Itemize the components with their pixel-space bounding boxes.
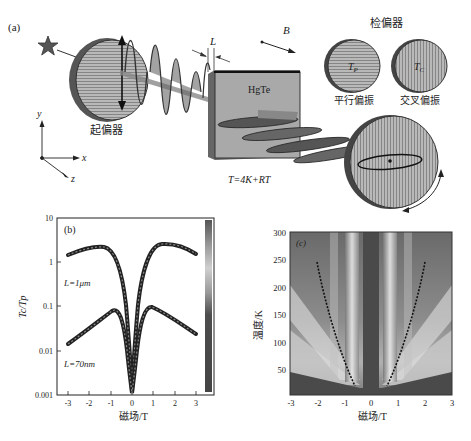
svg-text:-3: -3 xyxy=(287,398,294,408)
thickness-label: L xyxy=(209,35,216,47)
svg-text:10: 10 xyxy=(45,214,53,223)
coordinate-axes xyxy=(40,120,81,178)
figure: (a) L xyxy=(0,0,471,441)
thickness-marker: L xyxy=(192,35,230,72)
svg-text:150: 150 xyxy=(273,310,286,320)
plot-b-ylabel: Tc/Tp xyxy=(17,296,28,318)
svg-text:-2: -2 xyxy=(86,399,93,408)
svg-text:250: 250 xyxy=(273,255,286,265)
cross-polarization-disc: TC xyxy=(391,39,447,93)
z-axis-label: z xyxy=(70,173,75,184)
field-label: B xyxy=(283,24,290,36)
svg-text:2: 2 xyxy=(423,398,427,408)
plot-b-xticks: -3 -2 -1 0 1 2 3 xyxy=(65,399,198,408)
panel-c: (c) 50 100 150 200 250 300 -3 -2 -1 0 1 … xyxy=(252,228,454,422)
svg-text:1: 1 xyxy=(151,399,155,408)
parallel-label: 平行偏振 xyxy=(334,94,374,106)
svg-text:0: 0 xyxy=(130,399,134,408)
svg-text:1: 1 xyxy=(49,258,53,267)
temperature-label: T=4K+RT xyxy=(228,174,272,185)
panel-a-label: (a) xyxy=(8,21,21,34)
panel-a: (a) L xyxy=(8,16,447,213)
x-axis-label: x xyxy=(81,152,87,163)
svg-text:3: 3 xyxy=(450,398,454,408)
parallel-polarization-disc: TP xyxy=(324,39,380,93)
panel-c-label: (c) xyxy=(296,238,306,248)
panel-b: (b) 0.001 0.01 0.1 1 10 -3 -2 -1 0 1 2 3 xyxy=(17,214,214,422)
svg-text:300: 300 xyxy=(273,228,286,238)
svg-text:0.01: 0.01 xyxy=(39,347,53,356)
plot-c-yticks: 50 100 150 200 250 300 xyxy=(273,228,286,375)
polarizer-label: 起偏器 xyxy=(90,123,123,136)
svg-text:50: 50 xyxy=(278,365,287,375)
annotation-70nm: L=70nm xyxy=(63,359,96,369)
svg-text:200: 200 xyxy=(273,283,286,293)
heatmap xyxy=(290,232,452,395)
svg-text:0: 0 xyxy=(369,398,373,408)
cross-label: 交叉偏振 xyxy=(400,94,440,106)
analyzer-disc xyxy=(344,115,438,209)
plot-b-xlabel: 磁场/T xyxy=(119,410,148,422)
plot-b-yticks: 0.001 0.01 0.1 1 10 xyxy=(35,214,53,400)
plot-c-ylabel: 温度/K xyxy=(252,309,264,340)
svg-text:100: 100 xyxy=(273,338,286,348)
svg-text:-1: -1 xyxy=(108,399,115,408)
plot-c-xticks: -3 -2 -1 0 1 2 3 xyxy=(287,398,454,408)
svg-text:-2: -2 xyxy=(314,398,321,408)
colorbar xyxy=(205,220,212,392)
panel-b-label: (b) xyxy=(64,224,76,236)
sample-label: HgTe xyxy=(248,84,271,95)
svg-text:0.1: 0.1 xyxy=(43,302,53,311)
svg-text:3: 3 xyxy=(194,399,198,408)
star-icon xyxy=(38,36,58,55)
svg-text:2: 2 xyxy=(173,399,177,408)
svg-text:-1: -1 xyxy=(341,398,348,408)
analyzer-label: 检偏器 xyxy=(370,16,403,29)
annotation-1um: L=1μm xyxy=(63,278,91,288)
field-arrow: B xyxy=(261,24,297,53)
svg-text:0.001: 0.001 xyxy=(35,391,53,400)
svg-text:1: 1 xyxy=(396,398,400,408)
svg-text:-3: -3 xyxy=(65,399,72,408)
y-axis-label: y xyxy=(36,108,42,119)
plot-c-xlabel: 磁场/T xyxy=(358,410,387,422)
